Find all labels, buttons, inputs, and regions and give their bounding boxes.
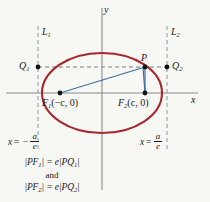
point-f1-label-sub: 1: [48, 102, 51, 109]
directrix-left-equation-numerator: a: [30, 132, 39, 141]
relation-first-close: |: [77, 157, 80, 167]
directrix-left-equation-denominator: e: [31, 142, 39, 151]
point-q1-marker: [36, 65, 41, 70]
point-p-marker: [143, 65, 148, 70]
directrix-right-equation-fraction: a e: [154, 132, 163, 151]
relation-second-mid: | = e|PQ: [41, 182, 73, 192]
x-axis-label: x: [191, 95, 195, 105]
relation-second-close: |: [77, 182, 80, 192]
relation-second-rhs-sub: 2: [74, 186, 77, 193]
relation-conjunction: and: [6, 170, 98, 180]
directrix-left-equation: x = − a e: [8, 132, 40, 151]
directrix-right-equation: x = a e: [140, 132, 163, 151]
relation-first-rhs-sub: 1: [74, 161, 77, 168]
point-q2-label-sub: 2: [179, 65, 182, 72]
directrix-right-equation-numerator: a: [154, 132, 163, 141]
point-f2-label: F2(c, 0): [118, 98, 148, 108]
point-f1-label-coords: (−c, 0): [51, 97, 78, 108]
directrix-left-equation-operator: = −: [12, 137, 29, 147]
relation-second: |PF2| = e|PQ2|: [6, 182, 98, 192]
directrix-left-label-main: L: [42, 26, 48, 37]
point-p-label: P: [141, 53, 147, 63]
point-q1-label: Q1: [19, 61, 29, 71]
directrix-right-label-main: L: [171, 26, 177, 37]
relation-first: |PF1| = e|PQ1|: [6, 157, 98, 167]
directrix-left-label: L1: [42, 27, 51, 37]
directrix-left-equation-fraction: a e: [30, 132, 39, 151]
point-q1-label-sub: 1: [26, 65, 29, 72]
relation-first-mid: | = e|PQ: [41, 157, 73, 167]
ellipse-directrix-figure: y x L1 L2 Q1 Q2 P F1(−c, 0) F2(c, 0) x =…: [0, 0, 210, 202]
directrix-right-equation-denominator: e: [154, 142, 162, 151]
focus-directrix-relations: |PF1| = e|PQ1| and |PF2| = e|PQ2|: [6, 157, 98, 195]
relation-second-lhs-sub: 2: [38, 186, 41, 193]
directrix-left-label-sub: 1: [48, 31, 51, 38]
directrix-right-label: L2: [171, 27, 180, 37]
point-f2-label-coords: (c, 0): [127, 97, 148, 108]
point-f1-marker: [58, 91, 63, 96]
y-axis-label: y: [104, 5, 108, 15]
point-f1-label: F1(−c, 0): [42, 98, 78, 108]
directrix-right-equation-operator: =: [144, 137, 152, 147]
point-f2-label-sub: 2: [124, 102, 127, 109]
relation-second-open: |PF: [24, 182, 38, 192]
relation-first-open: |PF: [24, 157, 38, 167]
point-q2-marker: [165, 65, 170, 70]
point-q2-label: Q2: [172, 61, 182, 71]
relation-first-lhs-sub: 1: [38, 161, 41, 168]
point-f2-marker: [143, 91, 148, 96]
directrix-right-label-sub: 2: [177, 31, 180, 38]
